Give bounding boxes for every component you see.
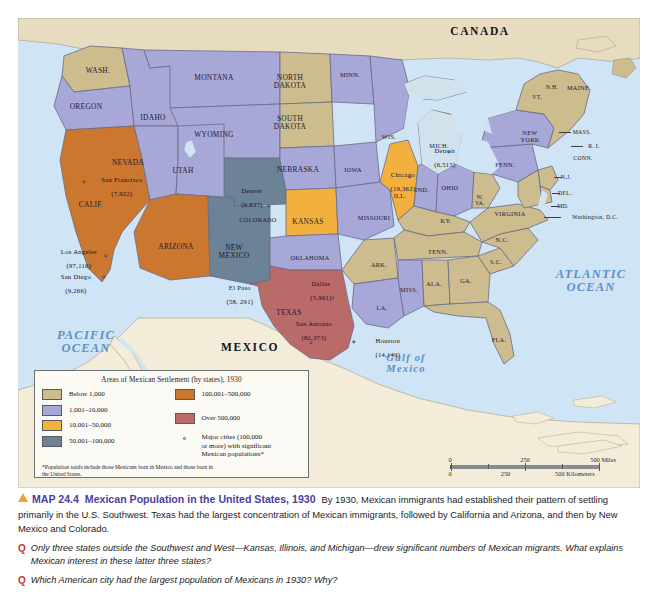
legend-swatch-red [175, 413, 195, 424]
legend-label-1001-10000: 1,001–10,000 [69, 406, 108, 415]
legend-label-major-cities: Major cities (100,000 or more) with sign… [202, 433, 272, 459]
legend-item-50001-100000: 50,001–100,000 [42, 436, 169, 447]
city-circle-icon [175, 433, 195, 444]
legend-footnote: *Population totals include those Mexican… [42, 464, 301, 478]
scale-km-500: 500 Kilometers [555, 470, 595, 477]
legend-column-left: Below 1,000 1,001–10,000 10,001–50,000 5… [42, 389, 169, 463]
scale-bar-km-labels: 0 250 500 Kilometers [450, 470, 600, 480]
legend-item-below-1000: Below 1,000 [42, 389, 169, 400]
map-page: .s { stroke:#6a6a86; stroke-width:.8; st… [0, 0, 652, 605]
leader-line-massachusetts [559, 132, 571, 133]
scale-miles-500: 500 Miles [590, 456, 616, 463]
leader-line-maryland [551, 206, 559, 207]
legend-swatch-amber [42, 420, 62, 431]
caption-map-title: Mexican Population in the United States,… [85, 493, 316, 505]
question-text-1: Only three states outside the Southwest … [31, 542, 640, 568]
leader-line-new-jersey [554, 177, 562, 178]
legend-label-50001-100000: 50,001–100,000 [69, 437, 115, 446]
question-marker-2: Q [18, 574, 26, 588]
legend-column-right: 100,001–500,000 Over 500,000 Major citie… [175, 389, 302, 463]
legend-item-10001-50000: 10,001–50,000 [42, 420, 169, 431]
map-figure: .s { stroke:#6a6a86; stroke-width:.8; st… [18, 18, 640, 488]
caption-question-1: Q Only three states outside the Southwes… [18, 542, 640, 568]
question-marker-1: Q [18, 542, 26, 568]
legend-item-100001-500000: 100,001–500,000 [175, 389, 302, 400]
legend-item-over-500000: Over 500,000 [175, 413, 302, 424]
leader-line-rhode-island [571, 146, 583, 147]
scale-miles-250: 250 [520, 456, 530, 463]
triangle-icon [18, 493, 28, 502]
map-legend: Areas of Mexican Settlement (by states),… [34, 370, 309, 478]
caption-question-2: Q Which American city had the largest po… [18, 574, 640, 588]
question-text-2: Which American city had the largest popu… [31, 574, 338, 588]
scale-miles-0: 0 [448, 456, 451, 463]
figure-caption: MAP 24.4 Mexican Population in the Unite… [18, 492, 640, 590]
scale-km-250: 250 [501, 470, 511, 477]
caption-heading: MAP 24.4 Mexican Population in the Unite… [18, 492, 640, 536]
legend-label-over-500000: Over 500,000 [202, 414, 241, 423]
legend-label-100001-500000: 100,001–500,000 [202, 390, 251, 399]
legend-label-below-1000: Below 1,000 [69, 390, 105, 399]
scale-bar-track [450, 465, 600, 469]
legend-swatch-periwinkle [42, 405, 62, 416]
scale-km-0: 0 [448, 470, 451, 477]
scale-bar: 0 250 500 Miles 0 250 500 Kilometers [450, 456, 600, 480]
caption-map-number: MAP 24.4 [32, 493, 79, 505]
leader-line-delaware [552, 193, 560, 194]
leader-line-washington-dc [544, 217, 561, 218]
legend-item-major-cities: Major cities (100,000 or more) with sign… [175, 433, 302, 459]
legend-swatch-orange [175, 389, 195, 400]
legend-item-1001-10000: 1,001–10,000 [42, 405, 169, 416]
legend-swatch-slate [42, 436, 62, 447]
legend-title: Areas of Mexican Settlement (by states),… [42, 376, 301, 384]
legend-label-10001-50000: 10,001–50,000 [69, 421, 111, 430]
legend-swatch-tan [42, 389, 62, 400]
